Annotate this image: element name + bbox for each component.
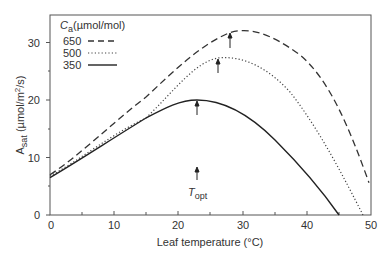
t-opt-label: Topt (188, 186, 208, 201)
x-tick-label: 10 (108, 219, 120, 231)
x-tick-label: 0 (48, 219, 54, 231)
x-axis (82, 211, 339, 215)
x-tick-label: 20 (172, 219, 184, 231)
legend-label-650: 650 (63, 35, 81, 47)
x-tick-label: 40 (301, 219, 313, 231)
y-tick-label: 30 (28, 37, 40, 49)
y-axis (46, 43, 50, 216)
legend: Ca(µmol/mol) 650 500 350 (60, 19, 125, 71)
legend-label-350: 350 (63, 59, 81, 71)
y-axis-label: Asat (µmol/m2/s) (13, 75, 29, 154)
chart: 0 10 20 30 0 10 20 30 40 50 Leaf tempera… (0, 0, 388, 259)
x-tick-label: 30 (237, 219, 249, 231)
series-650-line (50, 31, 369, 183)
x-axis-label: Leaf temperature (°C) (157, 236, 264, 248)
plot-frame (50, 15, 371, 215)
y-tick-label: 10 (28, 152, 40, 164)
x-tick-label: 50 (365, 219, 377, 231)
legend-label-500: 500 (63, 47, 81, 59)
y-tick-label: 20 (28, 94, 40, 106)
legend-title: Ca(µmol/mol) (60, 19, 125, 34)
y-tick-label: 0 (34, 209, 40, 221)
